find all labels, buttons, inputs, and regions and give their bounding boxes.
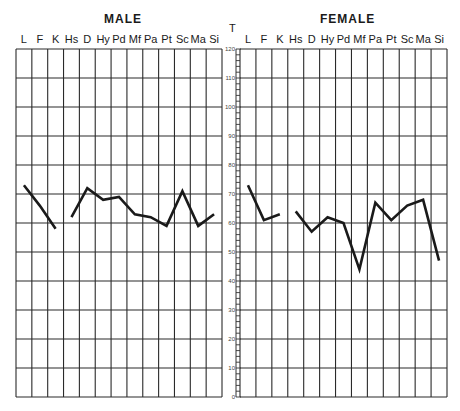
scale-tick-label: 50 bbox=[228, 249, 235, 255]
scale-tick-label: 30 bbox=[228, 307, 235, 313]
female-profile-line bbox=[248, 185, 280, 220]
scale-tick-label: 90 bbox=[228, 133, 235, 139]
scale-tick-label: 10 bbox=[228, 365, 235, 371]
scale-tick-label: 0 bbox=[232, 394, 236, 400]
scale-tick-label: 120 bbox=[225, 46, 236, 52]
scale-tick-label: 110 bbox=[225, 75, 235, 81]
scale-tick-label: 60 bbox=[228, 220, 235, 226]
scale-tick-label: 70 bbox=[228, 191, 235, 197]
scale-tick-label: 40 bbox=[228, 278, 235, 284]
scale-tick-label: 80 bbox=[228, 162, 235, 168]
scale-tick-label: 100 bbox=[225, 104, 236, 110]
mmpi-profile-chart: 0102030405060708090100110120 bbox=[0, 0, 460, 411]
scale-tick-label: 20 bbox=[228, 336, 235, 342]
male-profile-line bbox=[24, 185, 56, 229]
